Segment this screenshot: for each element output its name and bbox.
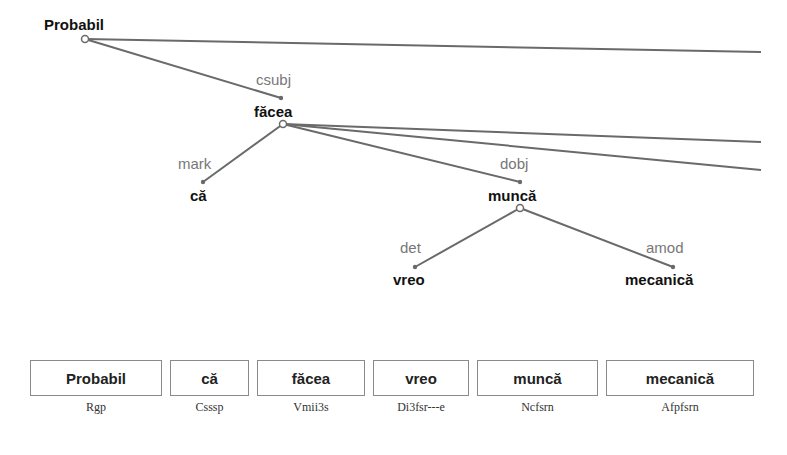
token-mecanica[interactable]: mecanică Afpfsrn [606,360,754,415]
edge-end-dot [201,180,205,184]
token-vreo[interactable]: vreo Di3fsr---e [373,360,469,415]
token-pos-tag: Ncfsrn [477,400,598,415]
relation-amod: amod [646,239,684,256]
node-munca[interactable]: muncă [488,187,537,204]
token-word-box[interactable]: mecanică [606,360,754,396]
edge-end-dot [279,96,283,100]
token-row: Probabil Rgp că Csssp făcea Vmii3s vreo … [0,360,787,440]
token-ca[interactable]: că Csssp [170,360,249,415]
token-pos-tag: Di3fsr---e [373,400,469,415]
edge-mark [203,124,283,182]
token-munca[interactable]: muncă Ncfsrn [477,360,598,415]
token-pos-tag: Rgp [30,400,162,415]
token-pos-tag: Csssp [170,400,249,415]
token-pos-tag: Afpfsrn [606,400,754,415]
edge-det [415,208,520,267]
relation-dobj: dobj [500,155,528,172]
edge-dobj [283,124,520,182]
node-ca[interactable]: că [190,187,207,204]
edge-end-dot [413,265,417,269]
node-mecanica[interactable]: mecanică [625,271,694,288]
token-pos-tag: Vmii3s [257,400,365,415]
edge-csubj [85,39,281,98]
head-dot-munca [517,205,524,212]
node-facea[interactable]: făcea [254,103,293,120]
token-probabil[interactable]: Probabil Rgp [30,360,162,415]
node-probabil[interactable]: Probabil [44,16,104,33]
edge-amod [520,208,673,267]
edge-end-dot [671,265,675,269]
token-word-box[interactable]: făcea [257,360,365,396]
relation-det: det [400,239,422,256]
relation-csubj: csubj [256,71,291,88]
token-word-box[interactable]: Probabil [30,360,162,396]
relation-mark: mark [178,155,212,172]
dependency-tree: Probabil făcea că muncă vreo mecanică cs… [0,0,787,340]
token-facea[interactable]: făcea Vmii3s [257,360,365,415]
token-word-box[interactable]: muncă [477,360,598,396]
edge-end-dot [518,180,522,184]
token-word-box[interactable]: vreo [373,360,469,396]
node-vreo[interactable]: vreo [393,271,425,288]
edge-probabil-offscreen [85,39,761,52]
head-dot-facea [280,121,287,128]
head-dot-probabil [82,36,89,43]
token-word-box[interactable]: că [170,360,249,396]
edge-facea-offscreen-1 [283,124,761,142]
